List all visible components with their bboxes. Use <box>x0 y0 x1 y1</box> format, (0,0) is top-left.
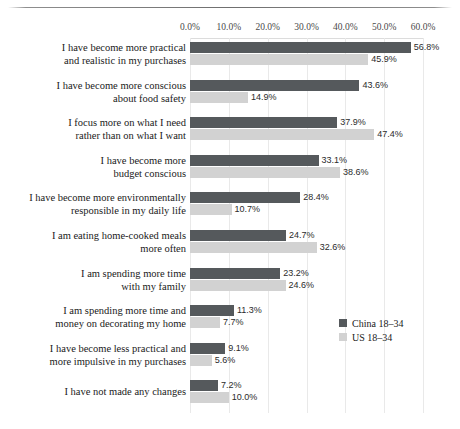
bar-us[interactable]: 38.6% <box>190 167 440 178</box>
bar-value-label: 9.1% <box>228 342 249 354</box>
bar-rect <box>190 54 368 65</box>
chart-figure: CONSUMERS 0.0%10.0%20.0%30.0%40.0%50.0%6… <box>0 0 460 429</box>
category-label-line: with my family <box>2 280 186 293</box>
bar-rect <box>190 167 340 178</box>
bar-value-label: 28.4% <box>303 191 329 203</box>
bar-value-label: 37.9% <box>340 116 366 128</box>
bar-us[interactable]: 24.6% <box>190 280 440 291</box>
bar-china[interactable]: 33.1% <box>190 155 440 166</box>
chart-legend: China 18–34 US 18–34 <box>339 316 403 344</box>
bar-rect <box>190 117 337 128</box>
legend-label-us: US 18–34 <box>352 332 392 343</box>
category-label-line: I am eating home-cooked meals <box>2 229 186 242</box>
category-label-line: more impulsive in my purchases <box>2 355 186 368</box>
x-axis-tick-0: 0.0% <box>180 22 200 32</box>
bar-group: I am spending more timewith my family23.… <box>0 268 460 292</box>
bar-us[interactable]: 14.9% <box>190 92 440 103</box>
x-axis-tick-30: 30.0% <box>294 22 319 32</box>
category-label-line: more often <box>2 242 186 255</box>
bar-rect <box>190 380 218 391</box>
bar-rect <box>190 192 300 203</box>
category-label-line: I have become more conscious <box>2 79 186 92</box>
bar-us[interactable]: 10.0% <box>190 392 440 403</box>
x-axis-tick-50: 50.0% <box>372 22 397 32</box>
category-label: I am eating home-cooked mealsmore often <box>2 229 186 255</box>
bar-rect <box>190 343 225 354</box>
bar-value-label: 33.1% <box>322 154 348 166</box>
x-axis-tick-20: 20.0% <box>255 22 280 32</box>
category-label: I focus more on what I needrather than o… <box>2 116 186 142</box>
category-label: I have become more consciousabout food s… <box>2 79 186 105</box>
bar-value-label: 7.7% <box>223 316 244 328</box>
bar-china[interactable]: 24.7% <box>190 230 440 241</box>
bar-us[interactable]: 10.7% <box>190 204 440 215</box>
bar-us[interactable]: 5.6% <box>190 355 440 366</box>
bar-china[interactable]: 28.4% <box>190 192 440 203</box>
bar-us[interactable]: 45.9% <box>190 54 440 65</box>
category-label: I have not made any changes <box>2 385 186 398</box>
category-label: I have become morebudget conscious <box>2 154 186 180</box>
bar-value-label: 43.6% <box>362 79 388 91</box>
bar-group: I have become morebudget conscious33.1%3… <box>0 155 460 179</box>
bar-rect <box>190 155 319 166</box>
bar-group: I have become more practicaland realisti… <box>0 42 460 66</box>
category-label-line: money on decorating my home <box>2 317 186 330</box>
x-axis-tick-10: 10.0% <box>217 22 242 32</box>
x-axis-tick-60: 60.0% <box>411 22 436 32</box>
bar-china[interactable]: 23.2% <box>190 268 440 279</box>
bar-group: I have become more consciousabout food s… <box>0 80 460 104</box>
category-label-line: responsible in my daily life <box>2 204 186 217</box>
bar-value-label: 45.9% <box>371 53 397 65</box>
bar-rect <box>190 317 220 328</box>
legend-item-china[interactable]: China 18–34 <box>339 316 403 330</box>
bar-value-label: 5.6% <box>215 354 236 366</box>
bar-rect <box>190 305 234 316</box>
category-label-line: I am spending more time <box>2 267 186 280</box>
legend-label-china: China 18–34 <box>352 318 403 329</box>
chart-title: CONSUMERS <box>0 0 460 2</box>
bar-china[interactable]: 9.1% <box>190 343 440 354</box>
bar-china[interactable]: 56.8% <box>190 42 440 53</box>
bar-us[interactable]: 47.4% <box>190 129 440 140</box>
category-label-line: I am spending more time and <box>2 304 186 317</box>
x-axis-tick-40: 40.0% <box>333 22 358 32</box>
bar-rect <box>190 92 248 103</box>
bar-rect <box>190 230 286 241</box>
bar-rect <box>190 280 286 291</box>
bar-rect <box>190 268 280 279</box>
bar-value-label: 24.7% <box>289 229 315 241</box>
bar-china[interactable]: 7.2% <box>190 380 440 391</box>
category-label: I have become more practicaland realisti… <box>2 41 186 67</box>
bar-value-label: 38.6% <box>343 166 369 178</box>
legend-swatch-us-icon <box>339 333 347 341</box>
bar-rect <box>190 392 229 403</box>
category-label: I am spending more timewith my family <box>2 267 186 293</box>
category-label-line: budget conscious <box>2 167 186 180</box>
bar-rect <box>190 355 212 366</box>
legend-item-us[interactable]: US 18–34 <box>339 330 403 344</box>
bar-value-label: 23.2% <box>283 267 309 279</box>
header-divider-rule <box>8 7 452 8</box>
bar-value-label: 47.4% <box>377 128 403 140</box>
category-label: I am spending more time andmoney on deco… <box>2 304 186 330</box>
category-label-line: I have become more environmentally <box>2 191 186 204</box>
bar-group: I have become less practical andmore imp… <box>0 343 460 367</box>
bar-china[interactable]: 43.6% <box>190 80 440 91</box>
category-label: I have become more environmentallyrespon… <box>2 191 186 217</box>
bar-value-label: 56.8% <box>414 41 440 53</box>
category-label-line: I have become less practical and <box>2 342 186 355</box>
bar-group: I have become more environmentallyrespon… <box>0 192 460 216</box>
bar-rect <box>190 129 374 140</box>
bar-value-label: 32.6% <box>320 241 346 253</box>
category-label-line: about food safety <box>2 92 186 105</box>
bar-rect <box>190 242 317 253</box>
chart-title-clipped: CONSUMERS <box>0 0 460 2</box>
bar-china[interactable]: 37.9% <box>190 117 440 128</box>
category-label-line: I have not made any changes <box>2 385 186 398</box>
bar-value-label: 24.6% <box>289 279 315 291</box>
bar-value-label: 7.2% <box>221 379 242 391</box>
bar-value-label: 10.7% <box>235 203 261 215</box>
bar-us[interactable]: 32.6% <box>190 242 440 253</box>
category-label-line: I have become more <box>2 154 186 167</box>
bar-china[interactable]: 11.3% <box>190 305 440 316</box>
